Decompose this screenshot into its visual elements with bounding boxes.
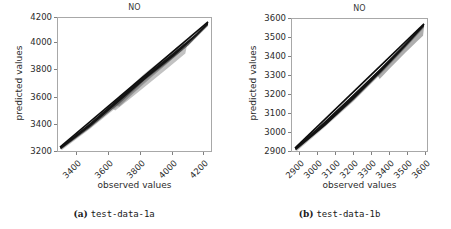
xaxis-label-a: observed values <box>57 180 212 190</box>
plot-title-a: NO <box>57 3 212 12</box>
ytick-label-a-4000: 4000 <box>22 37 52 47</box>
caption-name-a: test-data-1a <box>91 209 155 219</box>
yaxis-label-b: predicted values <box>248 23 258 143</box>
xaxis-label-b: observed values <box>291 180 428 190</box>
caption-name-b: test-data-1b <box>316 209 380 219</box>
caption-tag-a: (a) <box>73 209 87 219</box>
yaxis-label-a: predicted values <box>14 23 24 143</box>
ytick-label-a-3200: 3200 <box>22 146 52 156</box>
caption-a: (a) test-data-1a <box>0 209 228 219</box>
caption-b: (b) test-data-1b <box>228 209 451 219</box>
panel-b: NO <box>228 0 451 229</box>
ytick-label-b-3500: 3500 <box>256 32 286 42</box>
panel-a: NO <box>0 0 228 229</box>
ytick-label-b-3100: 3100 <box>256 108 286 118</box>
scatter-band-b <box>292 19 427 151</box>
figure-two-panel-scatter: NO <box>0 0 451 229</box>
ytick-label-a-4200: 4200 <box>22 12 52 22</box>
ytick-label-b-2900: 2900 <box>256 146 286 156</box>
ytick-label-a-3400: 3400 <box>22 119 52 129</box>
ytick-label-b-3300: 3300 <box>256 70 286 80</box>
ytick-label-a-3800: 3800 <box>22 64 52 74</box>
ytick-label-b-3600: 3600 <box>256 13 286 23</box>
scatter-band-a <box>58 18 211 151</box>
ytick-label-a-3600: 3600 <box>22 92 52 102</box>
ytick-label-b-3000: 3000 <box>256 127 286 137</box>
plot-title-b: NO <box>291 4 428 13</box>
caption-tag-b: (b) <box>299 209 314 219</box>
ytick-label-b-3400: 3400 <box>256 51 286 61</box>
plot-area-b <box>291 18 428 152</box>
plot-area-a <box>57 17 212 152</box>
ytick-label-b-3200: 3200 <box>256 89 286 99</box>
